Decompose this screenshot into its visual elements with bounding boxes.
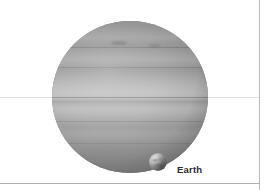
limb-darkening-shading [52, 21, 208, 173]
earth-label: Earth [177, 164, 202, 175]
gas-giant-disc [52, 21, 208, 173]
planet-size-comparison-figure: Earth [0, 0, 268, 190]
gas-giant-planet [52, 21, 208, 173]
earth-disc [149, 153, 167, 171]
earth-planet [149, 153, 167, 171]
frame-border-bottom [0, 183, 260, 184]
earth-surface-mottling [149, 153, 167, 171]
frame-border-right [259, 0, 260, 190]
